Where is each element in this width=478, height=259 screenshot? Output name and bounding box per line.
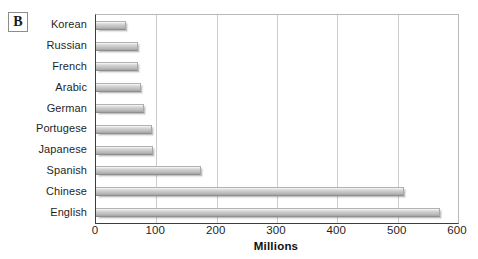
bar-row xyxy=(96,140,458,161)
x-tick-100: 100 xyxy=(146,224,166,236)
x-tick-200: 200 xyxy=(206,224,226,236)
y-axis-label-french: French xyxy=(52,60,87,72)
y-axis-label-portugese: Portugese xyxy=(36,122,87,134)
bar-german xyxy=(96,104,144,113)
bar-portugese xyxy=(96,125,152,134)
bar-row xyxy=(96,77,458,98)
bar-spanish xyxy=(96,166,201,175)
x-tick-0: 0 xyxy=(92,224,99,236)
bar-korean xyxy=(96,21,126,30)
bar-row xyxy=(96,36,458,57)
y-axis-label-german: German xyxy=(47,102,87,114)
bar-row xyxy=(96,98,458,119)
x-axis-title: Millions xyxy=(95,240,457,252)
y-axis-category-labels: KoreanRussianFrenchArabicGermanPortugese… xyxy=(0,14,92,222)
bar-row xyxy=(96,181,458,202)
bar-series xyxy=(96,15,458,223)
bar-japanese xyxy=(96,146,153,155)
x-tick-300: 300 xyxy=(266,224,286,236)
bar-russian xyxy=(96,42,138,51)
bar-row xyxy=(96,119,458,140)
y-axis-label-chinese: Chinese xyxy=(46,185,87,197)
bar-chinese xyxy=(96,187,404,196)
y-axis-label-english: English xyxy=(50,206,87,218)
x-axis-tick-labels: 0100200300400500600 xyxy=(95,224,457,240)
y-axis-label-russian: Russian xyxy=(47,39,87,51)
plot-area xyxy=(95,14,459,224)
bar-row xyxy=(96,161,458,182)
y-axis-label-japanese: Japanese xyxy=(38,143,87,155)
y-axis-label-arabic: Arabic xyxy=(55,81,87,93)
bar-row xyxy=(96,57,458,78)
bar-arabic xyxy=(96,83,141,92)
y-axis-label-spanish: Spanish xyxy=(47,164,87,176)
bar-row xyxy=(96,202,458,223)
x-tick-400: 400 xyxy=(327,224,347,236)
bar-english xyxy=(96,208,440,217)
bar-row xyxy=(96,15,458,36)
bar-french xyxy=(96,62,138,71)
bar-chart-figure: B KoreanRussianFrenchArabicGermanPortuge… xyxy=(0,0,478,259)
x-tick-500: 500 xyxy=(387,224,407,236)
x-tick-600: 600 xyxy=(447,224,467,236)
y-axis-label-korean: Korean xyxy=(51,18,87,30)
